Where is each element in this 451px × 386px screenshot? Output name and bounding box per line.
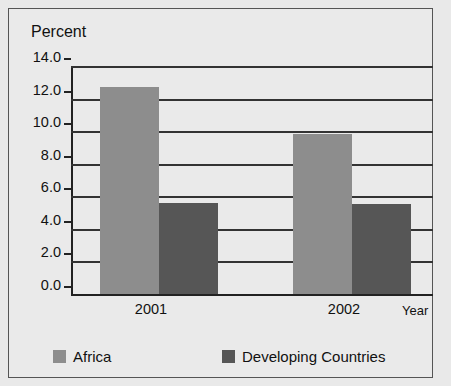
gridline: [71, 66, 433, 68]
legend-swatch: [53, 350, 66, 363]
y-tick-mark: [64, 123, 71, 125]
legend-item: Africa: [53, 349, 111, 364]
y-tick-label: 6.0: [13, 179, 61, 195]
gridline: [71, 294, 433, 296]
x-axis-title: Year: [402, 303, 428, 318]
legend-label: Developing Countries: [242, 349, 385, 364]
chart-legend: AfricaDeveloping Countries: [9, 349, 434, 375]
chart-figure: Percent 14.012.010.08.06.04.02.00.0 2001…: [0, 0, 451, 386]
legend-swatch: [222, 350, 235, 363]
legend-item: Developing Countries: [222, 349, 385, 364]
bar: [159, 203, 218, 294]
legend-label: Africa: [73, 349, 111, 364]
chart-frame: Percent 14.012.010.08.06.04.02.00.0 2001…: [8, 8, 433, 378]
bar: [100, 87, 159, 294]
plot-area: [71, 66, 433, 294]
y-tick-mark: [64, 156, 71, 158]
y-tick-mark: [64, 221, 71, 223]
x-axis-category-label: 2001: [116, 301, 186, 317]
bar: [352, 204, 411, 294]
y-tick-label: 10.0: [13, 114, 61, 130]
y-tick-label: 0.0: [13, 277, 61, 293]
y-tick-label: 14.0: [13, 49, 61, 65]
y-tick-mark: [64, 286, 71, 288]
x-axis-category-label: 2002: [309, 301, 379, 317]
y-tick-mark: [64, 91, 71, 93]
bar: [293, 134, 352, 294]
y-tick-label: 12.0: [13, 82, 61, 98]
y-axis-title: Percent: [31, 23, 86, 41]
y-tick-mark: [64, 253, 71, 255]
y-tick-label: 4.0: [13, 212, 61, 228]
y-tick-mark: [64, 188, 71, 190]
y-tick-label: 2.0: [13, 244, 61, 260]
y-tick-label: 8.0: [13, 147, 61, 163]
y-tick-mark: [64, 58, 71, 60]
